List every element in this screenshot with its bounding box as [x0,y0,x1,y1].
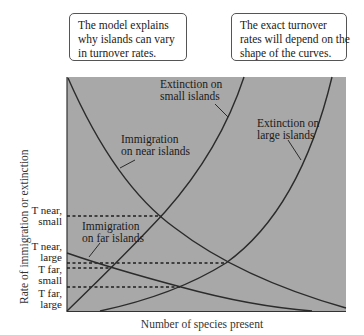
y-tick-t-near-small: T near,small [31,205,62,227]
label-extinction-large: Extinction on large islands [257,117,322,142]
y-axis-label: Rate of immigration or extinction [18,149,30,304]
y-tick-t-far-large: T far,large [38,288,62,310]
label-immigration-far: Immigration on far islands [82,220,144,244]
x-axis-label: Number of species present [0,318,364,330]
y-tick-t-near-large: T near,large [31,241,62,263]
label-immigration-near: Immigration on near islands [121,133,191,157]
y-tick-t-far-small: T far,small [38,264,62,286]
plot-area [67,77,346,311]
label-extinction-small: Extinction on small islands [160,78,225,102]
